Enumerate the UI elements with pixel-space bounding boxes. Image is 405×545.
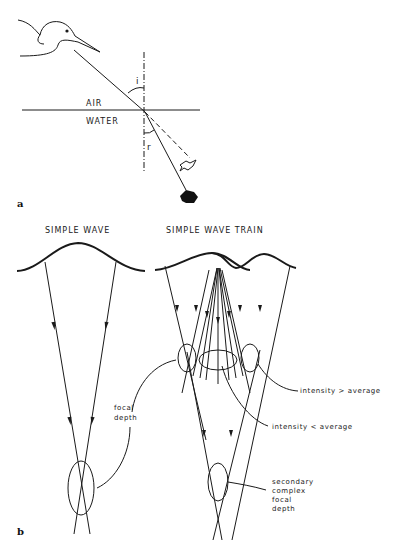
ray-right	[74, 262, 116, 534]
intensity-less-label: intensity < average	[272, 423, 353, 431]
inner-ray-r	[222, 270, 250, 393]
real-fish-icon	[180, 190, 198, 203]
refracted-ray	[145, 112, 186, 190]
intensity-greater-label: intensity > average	[300, 387, 381, 395]
angle-i-label: i	[136, 76, 139, 86]
simple-wave-diagram: SIMPLE WAVE focal depth b	[17, 226, 176, 537]
secondary-label-2: complex	[272, 487, 306, 495]
angle-i-arc	[128, 88, 144, 93]
ray-left	[45, 262, 90, 534]
secondary-label-3: focal	[272, 496, 292, 504]
secondary-label-1: secondary	[272, 478, 314, 486]
outer-ray-1	[165, 266, 206, 440]
focal-leader-top	[132, 360, 176, 412]
focal-depth-label-1: focal	[114, 404, 134, 412]
refraction-diagram: i r AIR WATER a	[17, 20, 200, 209]
apparent-ray	[145, 112, 190, 158]
lower-ray-l	[187, 352, 222, 540]
heron-icon	[18, 20, 100, 56]
panel-a-label: a	[17, 198, 24, 209]
figure-canvas: i r AIR WATER a SIMPLE WAVE focal depth …	[0, 0, 405, 545]
wave-train-diagram: SIMPLE WAVE TRAIN	[155, 226, 381, 540]
leader-secondary	[228, 482, 266, 490]
focal-depth-label-2: depth	[114, 414, 137, 422]
inner-ray-l	[182, 270, 209, 393]
focal-leader-bottom	[97, 427, 130, 488]
angle-r-label: r	[147, 142, 151, 152]
lower-ray-r	[213, 350, 260, 540]
simple-wave-title: SIMPLE WAVE	[45, 226, 110, 235]
wave-crest	[17, 243, 145, 271]
right-interference-ellipse	[241, 344, 259, 372]
water-label: WATER	[86, 117, 119, 126]
wave-train-title: SIMPLE WAVE TRAIN	[166, 226, 264, 235]
wave-train-crest-right	[212, 253, 296, 268]
angle-r-arc	[144, 130, 154, 133]
panel-b-label: b	[17, 526, 24, 537]
secondary-label-4: depth	[272, 505, 295, 513]
apparent-fish-icon	[180, 160, 196, 171]
incident-ray	[74, 50, 145, 112]
air-label: AIR	[86, 99, 102, 108]
